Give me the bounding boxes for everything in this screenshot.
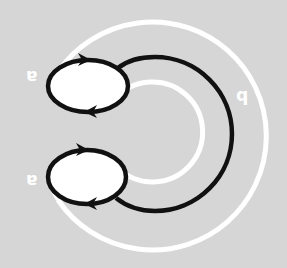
label-b: b — [236, 88, 248, 105]
inner-white-ring — [115, 82, 203, 182]
loop-top-ellipse — [48, 60, 128, 112]
loop-bottom-ellipse — [48, 150, 126, 204]
label-a-top: a — [26, 68, 37, 85]
diagram-canvas: a a b — [0, 0, 287, 268]
label-a-bottom: a — [26, 172, 37, 189]
diagram-svg — [0, 0, 287, 268]
black-connector-arc — [116, 57, 232, 211]
